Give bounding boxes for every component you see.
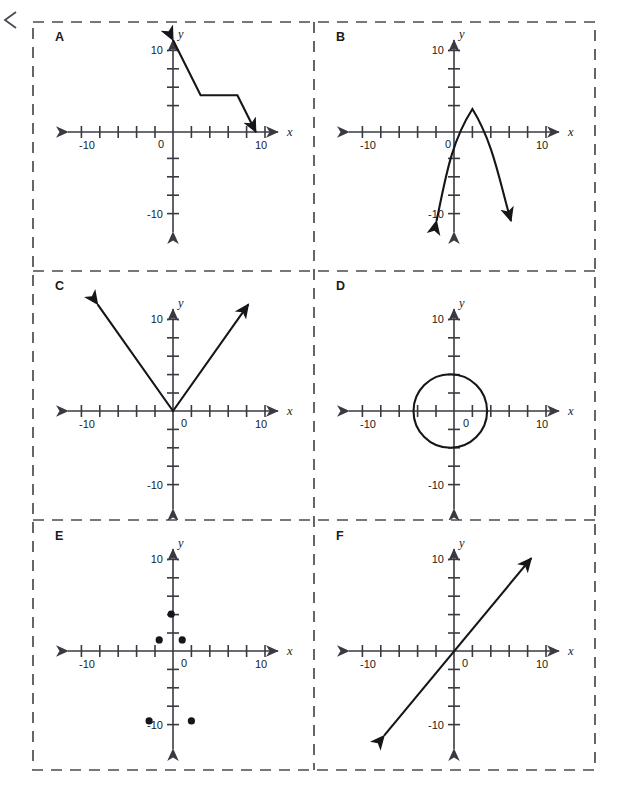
panel-d-axes	[349, 309, 559, 509]
panel-f-plot: -10 10 0 10 -10 x y	[314, 521, 595, 770]
panel-d-ylabel: y	[457, 296, 465, 310]
panel-e: E	[33, 521, 314, 770]
worksheet-page: A	[0, 0, 628, 788]
panel-d-xtick-neg10: -10	[360, 418, 376, 430]
panel-c: C	[33, 271, 314, 520]
panel-c-ytick-neg10: -10	[147, 479, 163, 491]
panel-c-origin: 0	[181, 417, 187, 429]
caret-left-icon	[5, 12, 16, 28]
panel-a-xtick-neg10: -10	[79, 139, 95, 151]
panel-e-axes	[68, 549, 278, 749]
panel-d-xlabel: x	[567, 404, 574, 418]
panel-b-axes	[349, 40, 559, 232]
panel-a-plot: -10 10 0 10 -10 x y	[33, 22, 314, 271]
panel-e-ytick-pos10: 10	[151, 553, 163, 565]
panel-c-xtick-pos10: 10	[255, 418, 267, 430]
panel-b-origin: 0	[445, 138, 451, 150]
panel-f-ytick-neg10: -10	[428, 719, 444, 731]
panel-d-ytick-pos10: 10	[432, 313, 444, 325]
panel-e-xtick-neg10: -10	[79, 658, 95, 670]
panel-e-xlabel: x	[286, 644, 293, 658]
panel-f-origin: 0	[462, 657, 468, 669]
panel-a-origin: 0	[158, 138, 164, 150]
panel-e-plot: -10 10 0 10 -10 x y	[33, 521, 314, 770]
panel-a-xtick-pos10: 10	[255, 139, 267, 151]
panel-f-xtick-pos10: 10	[536, 658, 548, 670]
panel-d-plot: -10 10 0 10 -10 x y	[314, 271, 595, 520]
panel-a-ylabel: y	[176, 27, 184, 41]
panel-e-xtick-pos10: 10	[255, 658, 267, 670]
panel-a-axes	[68, 40, 278, 232]
panel-d-origin: 0	[463, 417, 469, 429]
panel-f-axes	[349, 549, 559, 749]
panel-b: B	[314, 22, 595, 271]
data-point	[156, 636, 163, 643]
panel-f: F	[314, 521, 595, 770]
panel-a-xlabel: x	[286, 125, 293, 139]
panel-e-origin: 0	[181, 657, 187, 669]
panel-a-piecewise-curve	[173, 40, 256, 132]
panel-f-xtick-neg10: -10	[360, 658, 376, 670]
panel-d: D	[314, 271, 595, 520]
panel-a: A	[33, 22, 314, 271]
panel-c-ylabel: y	[176, 296, 184, 310]
panel-d-xtick-pos10: 10	[536, 418, 548, 430]
panel-a-ytick-neg10: -10	[147, 208, 163, 220]
data-point	[188, 717, 195, 724]
panel-grid: A	[33, 22, 595, 770]
panel-f-xlabel: x	[567, 644, 574, 658]
panel-b-parabola-curve	[437, 109, 512, 221]
data-point	[179, 636, 186, 643]
data-point	[168, 610, 175, 617]
panel-a-ytick-pos10: 10	[151, 44, 163, 56]
panel-c-ytick-pos10: 10	[151, 313, 163, 325]
panel-b-ytick-pos10: 10	[432, 44, 444, 56]
panel-d-ytick-neg10: -10	[428, 479, 444, 491]
panel-b-ylabel: y	[457, 27, 465, 41]
panel-e-scatter-points	[146, 610, 195, 724]
panel-b-xlabel: x	[567, 125, 574, 139]
data-point	[146, 717, 153, 724]
panel-c-xtick-neg10: -10	[79, 418, 95, 430]
panel-f-ylabel: y	[457, 536, 465, 550]
panel-c-xlabel: x	[286, 404, 293, 418]
panel-c-axes	[68, 309, 278, 509]
panel-b-xtick-pos10: 10	[536, 139, 548, 151]
panel-f-ytick-pos10: 10	[432, 553, 444, 565]
panel-e-ylabel: y	[176, 536, 184, 550]
panel-c-plot: -10 10 0 10 -10 x y	[33, 271, 314, 520]
panel-b-plot: -10 10 0 10 -10 x y	[314, 22, 595, 271]
panel-b-xtick-neg10: -10	[360, 139, 376, 151]
